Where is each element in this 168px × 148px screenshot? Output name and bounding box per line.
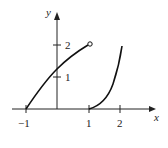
y-axis-label: y (46, 7, 51, 18)
x-tick-label-m1: −1 (18, 118, 30, 129)
x-axis-label: x (154, 112, 159, 123)
y-axis-arrow-icon (54, 12, 60, 20)
y-tick-label-2: 2 (65, 40, 71, 51)
x-tick-label-2: 2 (117, 118, 123, 129)
y-tick-label-1: 1 (65, 72, 71, 83)
open-circle-marker (88, 42, 92, 46)
x-tick-label-1: 1 (86, 118, 92, 129)
right-curve (89, 46, 122, 109)
